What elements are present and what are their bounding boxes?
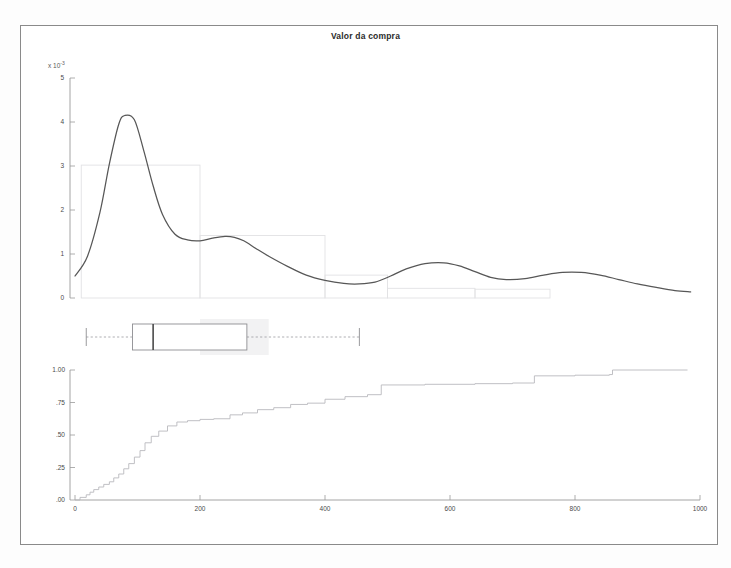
cdf-panel: 1.00.75.50.25.0002004006008001000	[0, 0, 731, 568]
cdf-y-tick-label: .75	[56, 399, 65, 406]
cdf-step-curve	[75, 370, 688, 500]
cdf-x-tick-label: 0	[73, 505, 77, 512]
cdf-x-tick-label: 400	[320, 505, 331, 512]
figure-canvas: Valor da compra x 10-3 012345 1.00.75.50…	[0, 0, 731, 568]
cdf-x-tick-label: 200	[195, 505, 206, 512]
cdf-y-tick-label: .00	[56, 496, 65, 503]
cdf-x-tick-label: 1000	[693, 505, 708, 512]
cdf-x-tick-label: 800	[570, 505, 581, 512]
cdf-y-tick-label: 1.00	[52, 366, 65, 373]
cdf-x-tick-label: 600	[445, 505, 456, 512]
cdf-y-tick-label: .50	[56, 431, 65, 438]
cdf-y-tick-label: .25	[56, 464, 65, 471]
